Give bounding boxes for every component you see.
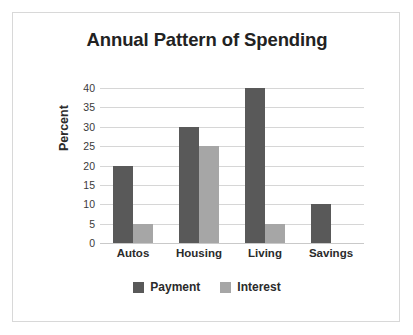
bar-housing-payment	[179, 127, 199, 243]
bar-autos-interest	[133, 224, 153, 243]
legend-label: Payment	[150, 280, 200, 294]
plot-area: 0510152025303540	[100, 88, 364, 243]
chart-frame: Annual Pattern of Spending Percent 05101…	[12, 12, 400, 322]
axis-baseline: 0	[100, 243, 364, 244]
y-tick-label: 15	[83, 180, 95, 191]
y-tick-label: 20	[83, 160, 95, 171]
y-tick-label: 10	[83, 199, 95, 210]
chart-legend: PaymentInterest	[13, 280, 401, 294]
bar-living-interest	[265, 224, 285, 243]
y-tick-label: 35	[83, 102, 95, 113]
x-tick-label-housing: Housing	[176, 247, 222, 259]
x-tick-label-living: Living	[248, 247, 282, 259]
bar-living-payment	[245, 88, 265, 243]
x-tick-label-savings: Savings	[309, 247, 353, 259]
legend-swatch-payment-icon	[133, 282, 144, 293]
legend-item-interest: Interest	[220, 280, 280, 294]
y-tick-label: 30	[83, 122, 95, 133]
y-axis-title: Percent	[57, 105, 71, 151]
y-tick-label: 5	[89, 218, 95, 229]
legend-item-payment: Payment	[133, 280, 200, 294]
y-tick-label: 40	[83, 83, 95, 94]
x-tick-label-autos: Autos	[117, 247, 150, 259]
chart-title: Annual Pattern of Spending	[13, 29, 401, 51]
bar-autos-payment	[113, 166, 133, 244]
legend-swatch-interest-icon	[220, 282, 231, 293]
bars-layer	[100, 88, 364, 243]
y-tick-label: 25	[83, 141, 95, 152]
bar-housing-interest	[199, 146, 219, 243]
y-tick-label: 0	[89, 238, 95, 249]
legend-label: Interest	[237, 280, 280, 294]
x-axis-labels: AutosHousingLivingSavings	[100, 247, 364, 267]
bar-savings-payment	[311, 204, 331, 243]
